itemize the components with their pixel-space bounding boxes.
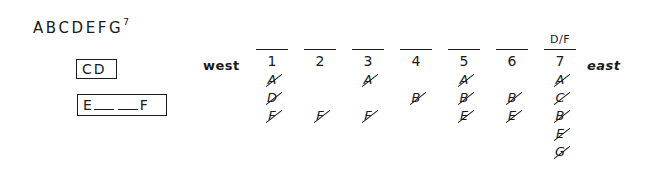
- west-label: west: [203, 58, 240, 73]
- column-header-assignment: [495, 33, 529, 47]
- title-letters: ABCDEFG: [33, 19, 123, 37]
- answer-line: [448, 49, 480, 50]
- position-column-7: D/F7ACBEG: [543, 33, 577, 161]
- title-superscript: 7: [123, 17, 129, 27]
- column-number: 7: [543, 52, 577, 70]
- crossed-out-letter: A: [255, 71, 289, 89]
- eliminated-letters: ABE: [447, 71, 481, 125]
- answer-line: [496, 49, 528, 50]
- cd-constraint-box: CD: [76, 59, 117, 79]
- column-number: 4: [399, 52, 433, 70]
- column-header-assignment: [255, 33, 289, 47]
- crossed-out-letter: G: [543, 143, 577, 161]
- crossed-out-letter: A: [447, 71, 481, 89]
- ef-box-start: E: [83, 97, 92, 113]
- position-column-5: 5ABE: [447, 33, 481, 125]
- crossed-out-letter: A: [543, 71, 577, 89]
- eliminated-letters: BE: [495, 71, 529, 125]
- cd-box-text: CD: [82, 61, 107, 77]
- column-number: 5: [447, 52, 481, 70]
- column-header-assignment: [447, 33, 481, 47]
- column-header-assignment: D/F: [543, 33, 577, 47]
- ef-box-end: F: [140, 97, 148, 113]
- eliminated-letters: F: [303, 71, 337, 125]
- eliminated-letters: B: [399, 71, 433, 125]
- position-column-2: 2F: [303, 33, 337, 125]
- answer-line: [544, 49, 576, 50]
- letter-set-title: ABCDEFG7: [33, 19, 129, 37]
- crossed-out-letter: F: [255, 107, 289, 125]
- column-header-assignment: [303, 33, 337, 47]
- crossed-out-letter: A: [351, 71, 385, 89]
- column-number: 1: [255, 52, 289, 70]
- column-number: 2: [303, 52, 337, 70]
- crossed-out-letter: F: [303, 107, 337, 125]
- crossed-out-letter: F: [351, 107, 385, 125]
- position-column-1: 1ADF: [255, 33, 289, 125]
- column-number: 6: [495, 52, 529, 70]
- blank-slot: [94, 98, 114, 110]
- crossed-out-letter: B: [447, 89, 481, 107]
- blank-slot: [118, 98, 138, 110]
- column-header-assignment: [399, 33, 433, 47]
- east-label: east: [587, 58, 621, 73]
- answer-line: [352, 49, 384, 50]
- crossed-out-letter: E: [447, 107, 481, 125]
- position-column-4: 4B: [399, 33, 433, 125]
- crossed-out-letter: D: [255, 89, 289, 107]
- crossed-out-letter: E: [543, 125, 577, 143]
- answer-line: [256, 49, 288, 50]
- column-number: 3: [351, 52, 385, 70]
- eliminated-letters: ACBEG: [543, 71, 577, 161]
- ef-constraint-box: EF: [77, 94, 167, 116]
- crossed-out-letter: B: [495, 89, 529, 107]
- position-column-3: 3AF: [351, 33, 385, 125]
- column-header-assignment: [351, 33, 385, 47]
- answer-line: [400, 49, 432, 50]
- crossed-out-letter: E: [495, 107, 529, 125]
- crossed-out-letter: C: [543, 89, 577, 107]
- crossed-out-letter: B: [399, 89, 433, 107]
- eliminated-letters: ADF: [255, 71, 289, 125]
- crossed-out-letter: B: [543, 107, 577, 125]
- eliminated-letters: AF: [351, 71, 385, 125]
- answer-line: [304, 49, 336, 50]
- position-column-6: 6BE: [495, 33, 529, 125]
